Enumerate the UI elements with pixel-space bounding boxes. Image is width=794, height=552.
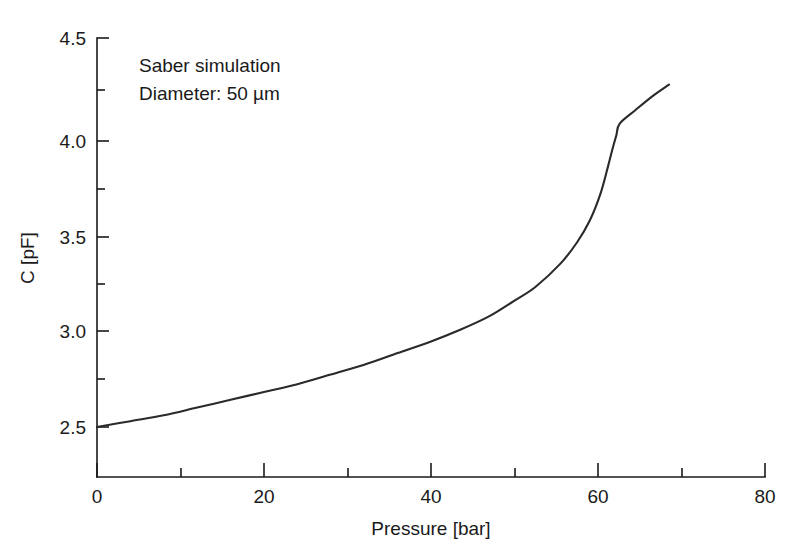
x-axis-major-ticks <box>97 463 765 477</box>
y-tick-label-3.0: 3.0 <box>60 321 86 342</box>
data-series-saber-simulation <box>97 85 669 427</box>
y-axis-title: C [pF] <box>17 232 38 284</box>
annotation-line-1: Saber simulation <box>139 55 281 76</box>
x-tick-label-0: 0 <box>92 486 103 507</box>
chart-canvas: 4.5 4.0 3.5 3.0 2.5 0 20 40 60 80 <box>0 0 794 552</box>
annotation-line-2: Diameter: 50 µm <box>139 83 280 104</box>
y-axis-major-ticks <box>97 38 109 427</box>
y-tick-label-4.5: 4.5 <box>60 28 86 49</box>
x-axis-tick-labels: 0 20 40 60 80 <box>92 486 776 507</box>
plot-annotation: Saber simulation Diameter: 50 µm <box>139 55 281 104</box>
x-tick-label-20: 20 <box>253 486 274 507</box>
chart-figure: 4.5 4.0 3.5 3.0 2.5 0 20 40 60 80 <box>0 0 794 552</box>
y-axis-minor-ticks <box>97 90 105 379</box>
x-tick-label-40: 40 <box>420 486 441 507</box>
y-axis-tick-labels: 4.5 4.0 3.5 3.0 2.5 <box>60 28 86 438</box>
x-tick-label-80: 80 <box>754 486 775 507</box>
x-axis-title: Pressure [bar] <box>371 518 490 539</box>
y-tick-label-3.5: 3.5 <box>60 227 86 248</box>
y-tick-label-2.5: 2.5 <box>60 417 86 438</box>
y-tick-label-4.0: 4.0 <box>60 131 86 152</box>
x-tick-label-60: 60 <box>587 486 608 507</box>
